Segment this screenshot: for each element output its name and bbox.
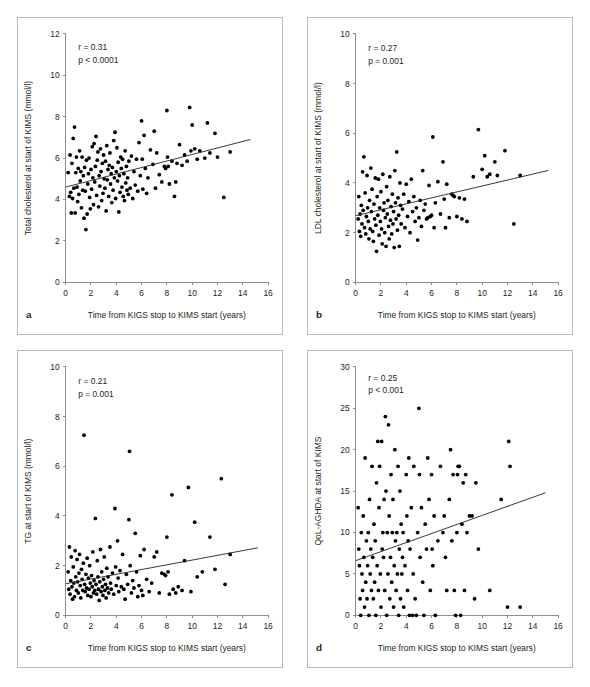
data-point	[128, 186, 132, 190]
data-point	[104, 209, 108, 213]
data-point	[422, 208, 426, 212]
data-point	[392, 605, 396, 609]
scatter-plot-c: 02468100246810121416Time from KIGS stop …	[18, 351, 282, 667]
x-tick-label: 4	[114, 621, 119, 631]
data-point	[189, 149, 193, 153]
data-point	[109, 587, 113, 591]
data-point	[195, 157, 199, 161]
data-point	[113, 130, 117, 134]
data-point	[390, 531, 394, 535]
data-point	[97, 599, 101, 603]
data-point	[124, 181, 128, 185]
data-point	[114, 170, 118, 174]
data-point	[68, 545, 72, 549]
data-point	[358, 564, 362, 568]
data-point	[368, 198, 372, 202]
data-point	[430, 473, 434, 477]
data-point	[488, 589, 492, 593]
data-point	[447, 498, 451, 502]
data-point	[402, 192, 406, 196]
data-point	[380, 242, 384, 246]
data-point	[165, 535, 169, 539]
figure-container: 0246810120246810121416Time from KIGS sto…	[0, 0, 590, 687]
data-point	[89, 168, 93, 172]
data-point	[384, 244, 388, 248]
data-point	[136, 595, 140, 599]
data-point	[508, 464, 512, 468]
data-point	[157, 591, 161, 595]
data-point	[512, 222, 516, 226]
data-point	[103, 186, 107, 190]
data-point	[360, 222, 364, 226]
data-point	[459, 613, 463, 617]
data-point	[86, 182, 90, 186]
data-point	[147, 590, 151, 594]
x-tick-label: 8	[455, 621, 460, 631]
data-point	[70, 161, 74, 165]
data-point	[396, 196, 400, 200]
x-tick-label: 0	[63, 621, 68, 631]
data-point	[373, 217, 377, 221]
data-point	[398, 489, 402, 493]
pvalue-annotation: p < 0.001	[368, 385, 404, 395]
data-point	[413, 220, 417, 224]
data-point	[83, 590, 87, 594]
data-point	[68, 153, 72, 157]
data-point	[90, 574, 94, 578]
data-point	[390, 580, 394, 584]
data-point	[92, 203, 96, 207]
x-tick-label: 14	[238, 621, 248, 631]
data-point	[417, 216, 421, 220]
data-point	[85, 212, 89, 216]
data-point	[369, 547, 373, 551]
y-axis-title: QoL-AGHDA at start of KIMS	[313, 436, 323, 545]
x-tick-label: 16	[263, 288, 273, 298]
data-point	[111, 166, 115, 170]
data-point	[411, 613, 415, 617]
data-point	[126, 176, 130, 180]
data-point	[133, 531, 137, 535]
data-point	[363, 605, 367, 609]
data-point	[383, 415, 387, 419]
data-point	[110, 201, 114, 205]
data-point	[418, 555, 422, 559]
data-point	[450, 539, 454, 543]
data-point	[160, 180, 164, 184]
data-point	[430, 213, 434, 217]
x-tick-label: 12	[503, 288, 513, 298]
data-point	[507, 440, 511, 444]
data-point	[365, 174, 369, 178]
y-axis-title: TG at start of KIMS (mmol/l)	[23, 438, 33, 543]
data-point	[503, 149, 507, 153]
data-point	[455, 531, 459, 535]
data-point	[133, 183, 137, 187]
data-point	[406, 215, 410, 219]
data-point	[356, 217, 360, 221]
data-point	[397, 547, 401, 551]
x-tick-label: 6	[429, 288, 434, 298]
data-point	[366, 531, 370, 535]
data-point	[111, 188, 115, 192]
data-point	[88, 564, 92, 568]
data-point	[359, 203, 363, 207]
data-point	[67, 587, 71, 591]
data-point	[396, 228, 400, 232]
x-tick-label: 16	[553, 621, 563, 631]
data-point	[391, 222, 395, 226]
y-tick-label: 0	[345, 610, 350, 620]
data-point	[377, 233, 381, 237]
data-point	[383, 231, 387, 235]
data-point	[174, 180, 178, 184]
data-point	[420, 225, 424, 229]
data-point	[425, 547, 429, 551]
data-point	[107, 163, 111, 167]
data-point	[166, 570, 170, 574]
data-point	[436, 180, 440, 184]
data-point	[142, 133, 146, 137]
data-point	[366, 220, 370, 224]
x-tick-label: 6	[139, 288, 144, 298]
data-point	[452, 589, 456, 593]
data-point	[107, 195, 111, 199]
regression-line	[356, 171, 548, 216]
data-point	[101, 594, 105, 598]
